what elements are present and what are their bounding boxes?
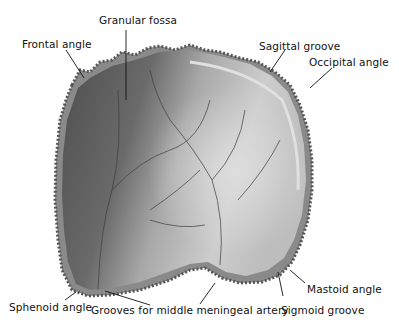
- label-granular-fossa: Granular fossa: [99, 14, 177, 26]
- label-mastoid-angle: Mastoid angle: [307, 283, 382, 295]
- label-grooves-middle-meningeal-artery: Grooves for middle meningeal artery: [91, 304, 289, 316]
- label-sagittal-groove: Sagittal groove: [259, 40, 340, 52]
- label-occipital-angle: Occipital angle: [309, 56, 389, 68]
- label-sigmoid-groove: Sigmoid groove: [281, 304, 365, 316]
- label-frontal-angle: Frontal angle: [22, 38, 92, 50]
- label-sphenoid-angle: Sphenoid angle: [9, 301, 92, 313]
- anatomy-figure: Granular fossa Frontal angle Sagittal gr…: [0, 0, 399, 333]
